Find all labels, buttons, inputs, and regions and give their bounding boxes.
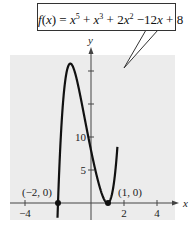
x-tick-label: 4	[154, 207, 160, 219]
function-graph: −4 2 4 10 5 x y (−2, 0) (1, 0)	[0, 0, 195, 230]
point-neg2-0	[55, 200, 61, 206]
x-axis-label: x	[182, 197, 188, 209]
x-tick-label: 2	[121, 207, 127, 219]
y-tick-label: 10	[75, 131, 87, 143]
point-label-1-0: (1, 0)	[118, 186, 142, 199]
function-callout: f(x) = x5 + x3 + 2x2 −12x + 8	[37, 3, 176, 31]
x-tick-label: −4	[19, 207, 31, 219]
y-axis-arrow-icon	[89, 47, 94, 54]
y-tick-label: 5	[81, 164, 87, 176]
x-axis-arrow-icon	[172, 201, 179, 206]
point-1-0	[105, 200, 111, 206]
point-label-neg2-0: (−2, 0)	[22, 186, 52, 199]
y-axis-label: y	[87, 34, 93, 46]
